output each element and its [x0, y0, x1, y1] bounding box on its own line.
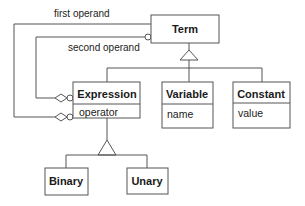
- class-term[interactable]: Term: [151, 15, 219, 43]
- generalization-expression: [66, 118, 147, 168]
- attribute-name: name: [167, 108, 193, 120]
- multiplicity-circle-icon: [145, 34, 151, 40]
- generalization-triangle-icon: [98, 140, 116, 155]
- class-term-name: Term: [172, 23, 198, 35]
- multiplicity-circle-icon: [67, 114, 73, 120]
- generalization-triangle-icon: [180, 50, 198, 60]
- class-unary-name: Unary: [131, 175, 163, 187]
- class-expression-name: Expression: [77, 88, 137, 100]
- attribute-value: value: [238, 107, 263, 119]
- class-expression[interactable]: Expression operator: [73, 82, 140, 118]
- class-constant-name: Constant: [237, 88, 285, 100]
- second-operand-label: second operand: [68, 42, 140, 53]
- class-variable-name: Variable: [166, 88, 208, 100]
- class-constant[interactable]: Constant value: [233, 82, 290, 128]
- aggregation-diamond-icon: [55, 94, 67, 102]
- class-unary[interactable]: Unary: [127, 168, 168, 194]
- uml-class-diagram: first operand second operand Term Expres…: [0, 0, 305, 206]
- multiplicity-circle-icon: [67, 95, 73, 101]
- class-binary[interactable]: Binary: [45, 168, 88, 195]
- attribute-operator: operator: [79, 106, 119, 118]
- aggregation-diamond-icon: [55, 113, 67, 121]
- class-variable[interactable]: Variable name: [162, 82, 213, 128]
- class-binary-name: Binary: [49, 175, 84, 187]
- first-operand-label: first operand: [54, 8, 110, 19]
